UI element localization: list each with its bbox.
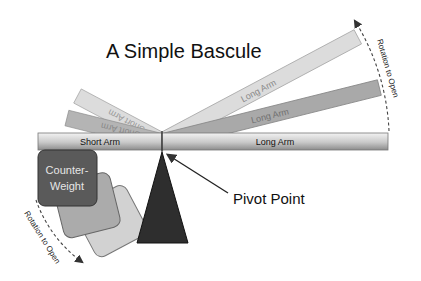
counterweight: Counter- Weight — [38, 150, 97, 206]
pivot-point-label: Pivot Point — [233, 190, 306, 207]
pivot-arrow — [168, 155, 228, 193]
bascule-diagram: Short Arm Short Arm Long Arm Long Arm Sh… — [0, 0, 421, 281]
beam-closed: Short Arm Long Arm — [38, 131, 388, 152]
rotation-label-left: Rotation to Open — [22, 209, 62, 265]
long-arm-label: Long Arm — [256, 137, 295, 147]
diagram-title: A Simple Bascule — [106, 40, 262, 62]
svg-text:Weight: Weight — [50, 180, 84, 192]
pivot-fulcrum — [137, 152, 188, 243]
short-arm-label: Short Arm — [80, 137, 120, 147]
svg-text:Counter-: Counter- — [46, 164, 89, 176]
